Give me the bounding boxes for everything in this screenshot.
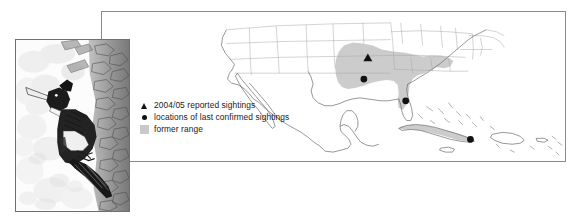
- legend-label-confirmed-sightings: locations of last confirmed sightings: [154, 112, 289, 123]
- legend-label-former-range: former range: [154, 124, 203, 135]
- bird-illustration-panel[interactable]: [15, 39, 130, 212]
- map-panel[interactable]: [101, 11, 566, 162]
- map-graphic: [102, 12, 565, 161]
- map-legend: 2004/05 reported sightings locations of …: [139, 99, 291, 135]
- confirmed-sighting-marker-cuba[interactable]: [467, 136, 474, 143]
- confirmed-sighting-marker-louisiana[interactable]: [360, 76, 367, 83]
- legend-item-reported-sightings[interactable]: 2004/05 reported sightings: [139, 99, 291, 111]
- range-swatch-icon: [139, 124, 150, 135]
- legend-item-former-range[interactable]: former range: [139, 123, 291, 135]
- triangle-marker-icon: [139, 100, 150, 111]
- confirmed-sighting-marker-florida[interactable]: [402, 97, 409, 104]
- legend-item-confirmed-sightings[interactable]: locations of last confirmed sightings: [139, 111, 291, 123]
- dot-marker-icon: [139, 112, 150, 123]
- range-map-figure: 2004/05 reported sightings locations of …: [0, 0, 583, 223]
- legend-label-reported-sightings: 2004/05 reported sightings: [154, 100, 255, 111]
- woodpecker-illustration: [16, 40, 129, 211]
